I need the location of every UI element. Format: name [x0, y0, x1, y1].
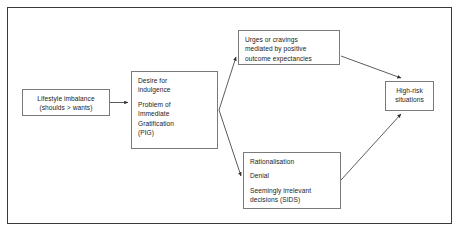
node-pig-line-2: indulgence — [138, 85, 212, 94]
node-highrisk-line-1: High-risk — [389, 86, 430, 95]
diagram-canvas: Lifestyle imbalance (shoulds > wants) De… — [0, 0, 463, 240]
node-rationalisation-line-1: Rationalisation — [250, 157, 335, 166]
node-pig-line-1: Desire for — [138, 76, 212, 85]
node-lifestyle-line-1: Lifestyle imbalance — [26, 94, 106, 103]
node-pig-line-6: (PIG) — [138, 128, 212, 137]
node-lifestyle-imbalance: Lifestyle imbalance (shoulds > wants) — [22, 89, 110, 116]
node-rationalisation-line-4: decisions (SIDS) — [250, 195, 335, 204]
node-urges-line-2: mediated by positive — [245, 44, 334, 53]
node-urges-line-1: Urges or cravings — [245, 35, 334, 44]
node-pig-line-3: Problem of — [138, 100, 212, 109]
node-rationalisation-denial-sids: Rationalisation Denial Seemingly irrelev… — [243, 152, 341, 209]
node-lifestyle-line-2: (shoulds > wants) — [26, 103, 106, 112]
node-pig-line-4: Immediate — [138, 109, 212, 118]
node-highrisk-line-2: situations — [389, 95, 430, 104]
node-urges-line-3: outcome expectancies — [245, 54, 334, 63]
node-pig-line-5: Gratification — [138, 119, 212, 128]
node-desire-for-indulgence: Desire for indulgence Problem of Immedia… — [131, 71, 218, 149]
node-high-risk-situations: High-risk situations — [385, 81, 434, 111]
node-urges-or-cravings: Urges or cravings mediated by positive o… — [238, 30, 340, 65]
node-rationalisation-line-3: Seemingly irrelevant — [250, 186, 335, 195]
node-rationalisation-line-2: Denial — [250, 171, 335, 180]
